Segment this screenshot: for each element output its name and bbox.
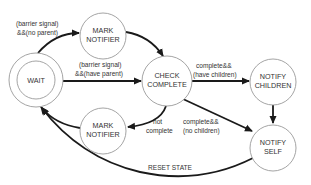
- svg-text:complete: complete: [146, 127, 173, 135]
- state-diagram: WAIT MARK NOTIFIER CHECK COMPLETE NOTIFY…: [0, 0, 311, 185]
- state-wait: WAIT: [9, 53, 63, 107]
- svg-text:&&(have parent): &&(have parent): [75, 70, 123, 78]
- svg-text:COMPLETE: COMPLETE: [147, 80, 187, 89]
- svg-text:NOTIFIER: NOTIFIER: [86, 130, 120, 139]
- svg-text:complete&&: complete&&: [196, 62, 232, 70]
- label-check-complete-to-mark-notifier-bottom: not complete: [146, 118, 173, 135]
- svg-text:(no children): (no children): [183, 127, 220, 135]
- svg-text:(have children): (have children): [193, 71, 237, 79]
- svg-text:WAIT: WAIT: [27, 76, 45, 85]
- svg-text:(barrier signal): (barrier signal): [79, 61, 122, 69]
- svg-text:(barrier signal): (barrier signal): [16, 20, 59, 28]
- svg-text:NOTIFIER: NOTIFIER: [86, 35, 120, 44]
- state-check-complete: CHECK COMPLETE: [142, 56, 192, 106]
- svg-text:RESET STATE: RESET STATE: [148, 164, 193, 171]
- label-check-complete-to-notify-children: complete&& (have children): [193, 62, 237, 79]
- state-mark-notifier-top: MARK NOTIFIER: [80, 13, 126, 59]
- state-mark-notifier-bottom: MARK NOTIFIER: [80, 108, 126, 154]
- svg-text:NOTIFY: NOTIFY: [260, 72, 287, 81]
- state-notify-children: NOTIFY CHILDREN: [250, 59, 296, 105]
- edge-mark-notifier-top-to-check-complete: [126, 32, 163, 56]
- svg-text:&&(no parent): &&(no parent): [17, 29, 58, 37]
- label-wait-to-mark-notifier-top: (barrier signal) &&(no parent): [16, 20, 59, 37]
- label-wait-to-check-complete: (barrier signal) &&(have parent): [75, 61, 123, 78]
- edge-mark-notifier-bottom-to-wait: [42, 108, 80, 128]
- state-notify-self: NOTIFY SELF: [250, 125, 296, 171]
- svg-text:NOTIFY: NOTIFY: [260, 138, 287, 147]
- label-notify-self-to-wait: RESET STATE: [148, 164, 193, 171]
- label-check-complete-to-notify-self: complete&& (no children): [183, 118, 220, 135]
- svg-text:CHILDREN: CHILDREN: [255, 81, 292, 90]
- svg-text:CHECK: CHECK: [154, 71, 179, 80]
- svg-text:complete&&: complete&&: [183, 118, 219, 126]
- svg-text:SELF: SELF: [264, 147, 283, 156]
- svg-text:MARK: MARK: [93, 26, 114, 35]
- svg-text:not: not: [153, 118, 162, 125]
- edge-wait-to-mark-notifier-top: [38, 33, 79, 53]
- svg-text:MARK: MARK: [93, 121, 114, 130]
